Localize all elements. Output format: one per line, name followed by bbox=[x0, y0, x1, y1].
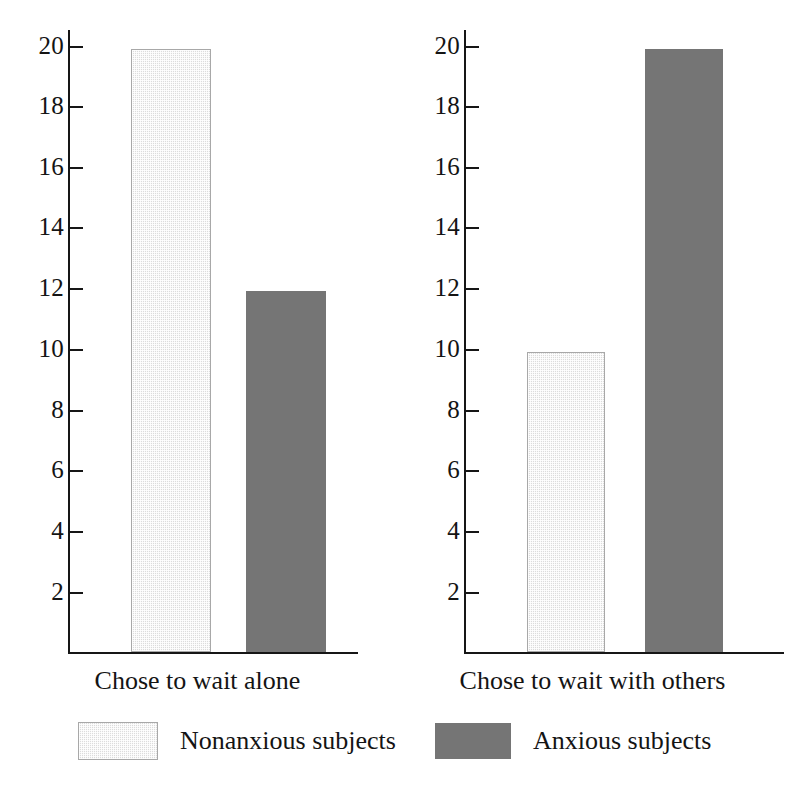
y-tick-label-2-left: 2 bbox=[18, 579, 64, 604]
y-tick-label-6-left: 6 bbox=[18, 457, 64, 482]
y-tick-8-left bbox=[70, 410, 83, 412]
y-tick-8-right bbox=[466, 410, 479, 412]
y-tick-16-right bbox=[466, 167, 479, 169]
y-tick-label-4-left: 4 bbox=[18, 518, 64, 543]
legend-label-nonanxious: Nonanxious subjects bbox=[180, 726, 396, 756]
y-tick-14-right bbox=[466, 227, 479, 229]
y-tick-label-14-left: 14 bbox=[18, 214, 64, 239]
legend-swatch-nonanxious-icon bbox=[78, 722, 158, 760]
y-tick-label-14-right: 14 bbox=[414, 214, 460, 239]
chart-panel-chose-to-wait-alone: 20 18 16 14 12 10 8 6 4 2 Chose to wait … bbox=[0, 0, 395, 700]
bar-anxious-chose-to-wait-alone[interactable] bbox=[246, 291, 326, 652]
y-tick-label-10-left: 10 bbox=[18, 336, 64, 361]
bar-nonanxious-chose-to-wait-with-others[interactable] bbox=[527, 352, 605, 652]
y-tick-4-right bbox=[466, 531, 479, 533]
y-tick-label-6-right: 6 bbox=[414, 457, 460, 482]
y-tick-label-4-right: 4 bbox=[414, 518, 460, 543]
y-tick-12-left bbox=[70, 288, 83, 290]
y-tick-2-left bbox=[70, 592, 83, 594]
y-tick-16-left bbox=[70, 167, 83, 169]
y-axis-line-right bbox=[464, 30, 466, 654]
legend-item-nonanxious[interactable]: Nonanxious subjects bbox=[78, 718, 396, 763]
chart-legend: Nonanxious subjects Anxious subjects bbox=[0, 718, 790, 773]
y-tick-20-left bbox=[70, 46, 83, 48]
legend-label-anxious: Anxious subjects bbox=[533, 726, 711, 756]
y-tick-label-16-right: 16 bbox=[414, 154, 460, 179]
y-tick-12-right bbox=[466, 288, 479, 290]
y-tick-20-right bbox=[466, 46, 479, 48]
y-tick-18-left bbox=[70, 106, 83, 108]
y-tick-6-right bbox=[466, 470, 479, 472]
y-tick-label-20-right: 20 bbox=[414, 33, 460, 58]
category-label-chose-to-wait-with-others: Chose to wait with others bbox=[395, 666, 790, 696]
y-tick-label-8-left: 8 bbox=[18, 397, 64, 422]
y-tick-label-10-right: 10 bbox=[414, 336, 460, 361]
y-tick-6-left bbox=[70, 470, 83, 472]
chart-panel-chose-to-wait-with-others: 20 18 16 14 12 10 8 6 4 2 Chose to wait … bbox=[395, 0, 790, 700]
bar-nonanxious-chose-to-wait-alone[interactable] bbox=[131, 49, 211, 652]
plot-area-right: 20 18 16 14 12 10 8 6 4 2 bbox=[395, 0, 790, 700]
y-tick-14-left bbox=[70, 227, 83, 229]
x-axis-baseline-left bbox=[68, 652, 358, 654]
y-tick-18-right bbox=[466, 106, 479, 108]
y-tick-label-18-right: 18 bbox=[414, 93, 460, 118]
bar-chart-figure: 20 18 16 14 12 10 8 6 4 2 Chose to wait … bbox=[0, 0, 790, 789]
legend-item-anxious[interactable]: Anxious subjects bbox=[435, 718, 711, 763]
x-axis-baseline-right bbox=[464, 652, 784, 654]
y-tick-4-left bbox=[70, 531, 83, 533]
y-tick-10-right bbox=[466, 349, 479, 351]
y-tick-label-18-left: 18 bbox=[18, 93, 64, 118]
y-tick-label-20-left: 20 bbox=[18, 33, 64, 58]
y-axis-line-left bbox=[68, 30, 70, 654]
bar-anxious-chose-to-wait-with-others[interactable] bbox=[645, 49, 723, 652]
y-tick-label-12-left: 12 bbox=[18, 275, 64, 300]
legend-swatch-anxious-icon bbox=[435, 723, 511, 759]
y-tick-label-2-right: 2 bbox=[414, 579, 460, 604]
y-tick-label-12-right: 12 bbox=[414, 275, 460, 300]
y-tick-10-left bbox=[70, 349, 83, 351]
y-tick-2-right bbox=[466, 592, 479, 594]
y-tick-label-8-right: 8 bbox=[414, 397, 460, 422]
plot-area-left: 20 18 16 14 12 10 8 6 4 2 bbox=[0, 0, 395, 700]
category-label-chose-to-wait-alone: Chose to wait alone bbox=[0, 666, 395, 696]
y-tick-label-16-left: 16 bbox=[18, 154, 64, 179]
